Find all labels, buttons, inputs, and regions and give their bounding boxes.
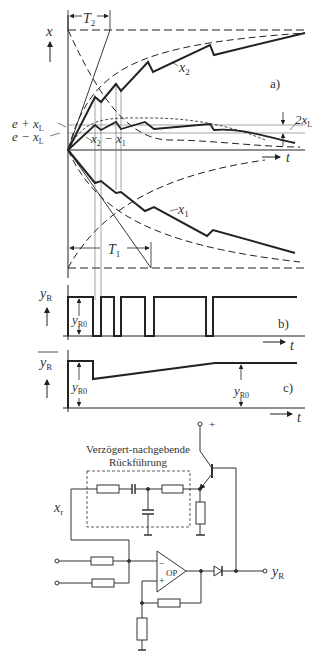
- junction-dot: [235, 570, 238, 573]
- emitter-resistor: [196, 502, 205, 524]
- positive-feedback-resistor: [158, 599, 180, 607]
- feedback-resistor-1: [97, 485, 119, 493]
- panel-b-t-label: t: [290, 338, 295, 353]
- opamp-plus: +: [159, 575, 165, 586]
- panel-b-y-label: yR: [38, 286, 52, 303]
- difference-label: x2 − x1: [90, 131, 126, 148]
- input-resistor-2: [92, 579, 114, 587]
- panel-b-amplitude-label: yR0: [70, 312, 87, 329]
- wire: [180, 571, 201, 603]
- transistor-emitter: [200, 474, 212, 489]
- ground-resistor: [137, 618, 147, 640]
- panel-a-y-label: x: [45, 23, 53, 39]
- diagram-canvas: x t a) T2 T1 x2 x1 e + xL e − xL x2 − x1…: [0, 0, 323, 660]
- input-terminal-2: [55, 581, 59, 585]
- t1-label: T1: [108, 242, 120, 259]
- e-minus-leader: [50, 133, 60, 136]
- panel-a-t-label: t: [286, 150, 291, 165]
- mean-signal: [68, 361, 297, 408]
- feedback-wire-left: [71, 489, 129, 561]
- panel-c-amplitude-label-2: yR0: [232, 383, 249, 400]
- panel-b: [47, 285, 305, 342]
- input-xr-label: xr: [53, 500, 63, 517]
- output-terminal: [263, 569, 267, 573]
- x1-leader: [170, 209, 178, 211]
- panel-c-t-label: t: [297, 410, 302, 425]
- supply-label: +: [209, 418, 215, 430]
- panel-c-label: c): [283, 380, 293, 395]
- x1-label: x1: [177, 202, 189, 219]
- input-resistor-1: [91, 557, 113, 565]
- e-plus-leader: [58, 123, 66, 127]
- panel-b-label: b): [278, 316, 289, 331]
- opamp-label: OP: [166, 568, 178, 578]
- wire: [142, 581, 158, 603]
- transistor-collector: [200, 451, 212, 468]
- wire: [114, 561, 129, 583]
- feedback-box: [87, 471, 190, 527]
- panel-a: [50, 10, 305, 300]
- diode: [214, 566, 222, 576]
- opamp-minus: −: [159, 558, 165, 569]
- input-terminal-1: [55, 559, 59, 563]
- panel-c: [38, 350, 305, 414]
- feedback-title-line2: Rückführung: [109, 456, 168, 468]
- x2-label: x2: [178, 60, 190, 77]
- panel-c-y-label: yR: [38, 355, 52, 372]
- base-wire: [212, 468, 236, 572]
- band-2xl-label: 2xL: [295, 112, 312, 129]
- supply-terminal: [198, 422, 202, 426]
- t2-label: T2: [83, 11, 95, 28]
- switching-signal: [68, 297, 297, 336]
- feedback-title-line1: Verzögert-nachgebende: [86, 443, 190, 455]
- panel-c-amplitude-label: yR0: [70, 379, 87, 396]
- feedback-resistor-2: [162, 485, 183, 493]
- output-yr-label: yR: [270, 564, 284, 581]
- panel-a-label: a): [270, 76, 280, 91]
